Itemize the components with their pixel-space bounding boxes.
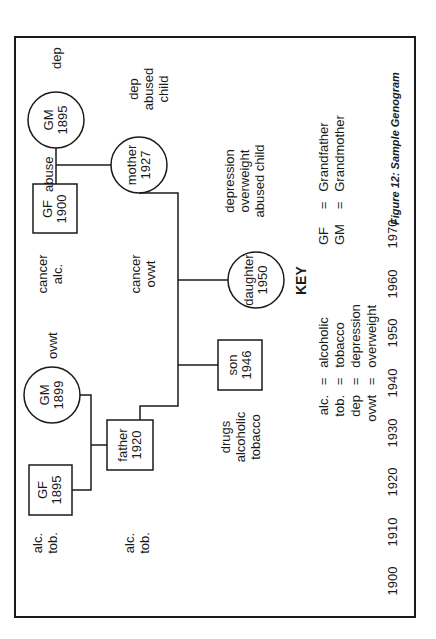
key-row-ovwt: ovwt = overweight	[364, 219, 379, 439]
gm-paternal-notes: ovwt	[45, 332, 60, 359]
key-row-dep: dep = depression	[348, 219, 363, 439]
year-1930: 1930	[385, 419, 400, 448]
year-1900: 1900	[385, 567, 400, 596]
year-1920: 1920	[385, 468, 400, 497]
year-1960: 1960	[385, 270, 400, 299]
figure-caption: Figure 12: Sample Genogram	[388, 72, 403, 225]
son-label: son 1946	[226, 351, 254, 380]
gm-paternal-label: GM 1899	[38, 381, 66, 410]
abuse-label: abuse	[41, 157, 56, 192]
father-notes: alc. tob.	[122, 532, 152, 554]
daughter-label: daughter 1950	[242, 254, 270, 305]
gf-maternal-notes: cancer alc.	[35, 254, 65, 293]
key-row-gm: GM = Grandmother	[332, 65, 347, 245]
father-label: father 1920	[116, 428, 144, 461]
key-row-tob: tob. = tobacco	[332, 219, 347, 439]
mother-label: mother 1927	[125, 145, 153, 185]
daughter-notes: cancer ovwt	[128, 254, 158, 293]
gf-paternal-label: GF 1895	[36, 476, 64, 505]
year-1910: 1910	[385, 518, 400, 547]
year-1950: 1950	[385, 319, 400, 348]
gf-paternal-notes: alc. tob.	[30, 532, 60, 554]
genogram-figure: GF 1895 GM 1899 GF 1900 GM 1895 father 1…	[0, 0, 436, 639]
gm-maternal-label: GM 1895	[42, 106, 70, 135]
gf-maternal-label: GF 1900	[41, 195, 69, 224]
key-row-gf: GF = Grandfather	[316, 65, 331, 245]
daughter-extra-notes: depression overweight abused child	[222, 145, 267, 218]
key-row-alc: alc. = alcoholic	[316, 219, 331, 439]
mother-notes: dep abused child	[126, 68, 171, 111]
key-title: KEY	[294, 266, 309, 295]
son-notes: drugs alcoholic tobacco	[218, 412, 263, 463]
year-1940: 1940	[385, 369, 400, 398]
gm-maternal-notes: dep	[49, 47, 64, 69]
